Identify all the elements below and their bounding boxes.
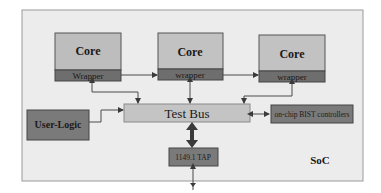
core-block-2: Core wrapper — [158, 33, 223, 80]
core-block-3: Core wrapper — [259, 35, 325, 82]
core-label: Core — [279, 47, 305, 61]
soc-label: SoC — [310, 154, 330, 166]
wrapper-label: Wrapper — [72, 71, 103, 81]
core-label: Core — [75, 44, 101, 58]
wrapper-label: wrapper — [175, 70, 204, 80]
core-block-1: Core Wrapper — [55, 33, 121, 81]
core-label: Core — [177, 45, 203, 59]
tap-external-arrowhead — [190, 183, 196, 187]
soc-test-architecture-diagram: Core Wrapper Core wrapper Core wrapper T… — [0, 0, 381, 193]
test-bus-label: Test Bus — [165, 106, 210, 121]
wrapper-label: wrapper — [277, 72, 306, 82]
bist-controllers-label: on-chip BIST controllers — [275, 110, 350, 119]
tap-label: 1149.1 TAP — [175, 153, 211, 162]
user-logic-label: User-Logic — [35, 119, 82, 130]
